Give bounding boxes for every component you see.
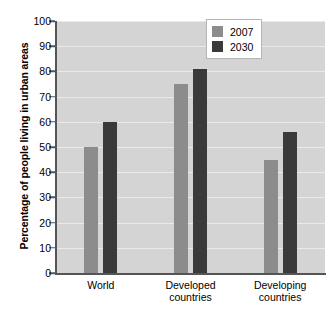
y-axis-tick-label: 20: [11, 217, 51, 229]
gridline: [56, 21, 325, 22]
bar-chart: Percentage of people living in urban are…: [0, 0, 335, 316]
bar-2030-developing-countries: [283, 132, 297, 273]
y-axis-tick-label: 10: [11, 242, 51, 254]
legend-item-2007: 2007: [212, 24, 253, 39]
x-axis-line: [55, 273, 326, 275]
y-axis-tick-label: 100: [11, 15, 51, 27]
y-axis-tick-label: 0: [11, 267, 51, 279]
bar-2030-developed-countries: [193, 69, 207, 273]
gridline: [56, 97, 325, 98]
bar-2030-world: [103, 122, 117, 273]
gridline: [56, 71, 325, 72]
x-axis-category-label: World: [56, 279, 146, 291]
legend-swatch-2007-icon: [212, 26, 223, 37]
legend-item-2030: 2030: [212, 39, 253, 54]
y-axis-tick-label: 60: [11, 116, 51, 128]
plot-area: [56, 21, 325, 273]
legend: 2007 2030: [206, 19, 262, 59]
y-axis-tick-label: 30: [11, 191, 51, 203]
bar-2007-developed-countries: [174, 84, 188, 273]
y-axis-line: [55, 21, 57, 274]
y-axis-tick-label: 90: [11, 40, 51, 52]
legend-swatch-2030-icon: [212, 41, 223, 52]
gridline: [56, 122, 325, 123]
y-axis-tick-label: 40: [11, 166, 51, 178]
y-axis-tick-label: 80: [11, 65, 51, 77]
x-axis-category-label: Developing countries: [235, 279, 325, 303]
y-axis-tick-label: 70: [11, 91, 51, 103]
gridline: [56, 46, 325, 47]
bar-2007-world: [84, 147, 98, 273]
legend-label-2007: 2007: [230, 26, 253, 38]
bar-2007-developing-countries: [264, 160, 278, 273]
y-axis-tick-label: 50: [11, 141, 51, 153]
x-axis-category-label: Developed countries: [146, 279, 236, 303]
legend-label-2030: 2030: [230, 41, 253, 53]
